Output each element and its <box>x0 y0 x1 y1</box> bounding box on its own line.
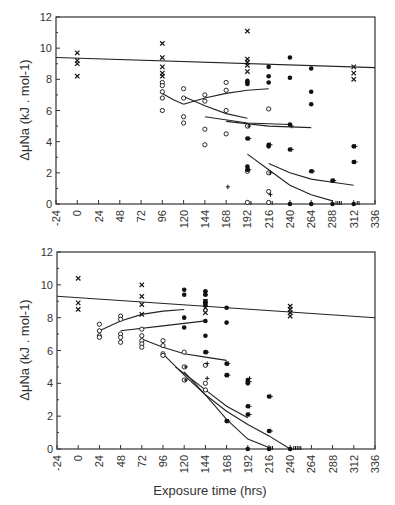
marker-x <box>160 65 164 69</box>
y-tick-label: 10 <box>41 279 53 291</box>
marker-x <box>160 74 164 78</box>
marker-open-circle <box>203 93 207 97</box>
marker-filled-circle <box>182 315 187 320</box>
x-tick-label: 72 <box>135 210 147 222</box>
marker-filled-circle <box>288 447 293 452</box>
fit-line <box>269 164 354 186</box>
x-tick-label: 24 <box>93 210 105 222</box>
x-tick-label: -24 <box>50 210 62 226</box>
marker-filled-circle <box>266 74 271 79</box>
marker-x <box>140 294 144 298</box>
y-tick-label: 12 <box>41 246 53 258</box>
marker-filled-circle <box>224 320 229 325</box>
marker-open-circle <box>203 381 207 385</box>
marker-open-circle <box>160 96 164 100</box>
marker-filled-circle <box>203 302 208 307</box>
plot-frame <box>56 17 375 204</box>
marker-filled-circle <box>309 90 314 95</box>
marker-open-circle <box>224 108 228 112</box>
marker-x <box>140 283 144 287</box>
marker-x <box>160 55 164 59</box>
marker-open-circle <box>97 335 101 339</box>
marker-x <box>203 311 207 315</box>
marker-open-circle <box>267 107 271 111</box>
y-tick-label: 10 <box>40 42 52 54</box>
fit-line <box>226 121 311 127</box>
marker-x <box>76 301 80 305</box>
marker-x <box>352 71 356 75</box>
marker-filled-circle <box>245 82 250 87</box>
marker-plus <box>205 376 209 380</box>
fit-line <box>57 296 375 317</box>
marker-filled-circle <box>182 292 187 297</box>
chart-figure: 024681012-240244872961201441681922162402… <box>0 0 395 505</box>
fit-line <box>56 58 375 68</box>
marker-open-circle <box>203 143 207 147</box>
x-tick-label: 168 <box>221 455 233 473</box>
x-tick-label: 288 <box>327 455 339 473</box>
y-tick-label: 4 <box>47 377 53 389</box>
marker-open-circle <box>161 343 165 347</box>
y-tick-label: 4 <box>46 136 52 148</box>
x-tick-label: 288 <box>326 210 338 228</box>
marker-open-circle <box>140 327 144 331</box>
marker-filled-circle <box>246 447 251 452</box>
marker-open-circle <box>203 99 207 103</box>
marker-filled-circle <box>224 306 229 311</box>
x-tick-label: 312 <box>348 210 360 228</box>
marker-open-circle <box>182 115 186 119</box>
marker-open-circle <box>119 317 123 321</box>
marker-open-circle <box>224 88 228 92</box>
x-tick-label: 264 <box>305 210 317 228</box>
y-axis-title-bottom: ΔμNa (kJ . mol-1) <box>17 299 32 400</box>
x-tick-label: 24 <box>93 455 105 467</box>
marker-x <box>76 307 80 311</box>
marker-open-circle <box>203 388 207 392</box>
marker-open-circle <box>182 87 186 91</box>
x-tick-label: 240 <box>284 210 296 228</box>
x-tick-label: 240 <box>284 455 296 473</box>
bottom-chart-panel: 024681012-240244872961201441681922162402… <box>41 246 381 473</box>
marker-x <box>75 62 79 66</box>
x-tick-label: 0 <box>72 455 84 461</box>
marker-open-circle <box>140 345 144 349</box>
marker-open-circle <box>160 108 164 112</box>
x-tick-label: 336 <box>369 210 381 228</box>
x-tick-label: 336 <box>369 455 381 473</box>
plot-frame <box>57 252 375 449</box>
x-tick-label: 48 <box>114 210 126 222</box>
y-tick-label: 2 <box>46 167 52 179</box>
marker-open-circle <box>119 340 123 344</box>
x-tick-label: 120 <box>178 210 190 228</box>
y-axis-title-top: ΔμNa (kJ . mol-1) <box>17 59 32 160</box>
marker-filled-circle <box>182 325 187 330</box>
marker-open-circle <box>160 83 164 87</box>
marker-x <box>160 41 164 45</box>
y-tick-label: 8 <box>47 312 53 324</box>
x-axis-title: Exposure time (hrs) <box>153 483 266 498</box>
marker-x <box>75 51 79 55</box>
marker-open-circle <box>182 96 186 100</box>
x-tick-label: 216 <box>263 210 275 228</box>
marker-x <box>352 77 356 81</box>
x-tick-label: 96 <box>157 455 169 467</box>
marker-x <box>245 29 249 33</box>
x-tick-label: 216 <box>263 455 275 473</box>
y-tick-label: 2 <box>47 410 53 422</box>
marker-filled-circle <box>266 65 271 70</box>
x-tick-label: 192 <box>242 455 254 473</box>
marker-open-circle <box>160 90 164 94</box>
marker-open-circle <box>182 350 186 354</box>
fit-line <box>184 97 248 119</box>
x-tick-label: 168 <box>220 210 232 228</box>
marker-open-circle <box>203 127 207 131</box>
y-tick-label: 6 <box>46 105 52 117</box>
x-tick-label: 120 <box>178 455 190 473</box>
marker-filled-circle <box>309 66 314 71</box>
fit-line <box>121 321 206 331</box>
marker-open-circle <box>119 335 123 339</box>
marker-filled-circle <box>288 55 293 60</box>
marker-filled-circle <box>203 319 208 324</box>
marker-open-circle <box>140 334 144 338</box>
x-tick-label: -24 <box>51 455 63 471</box>
